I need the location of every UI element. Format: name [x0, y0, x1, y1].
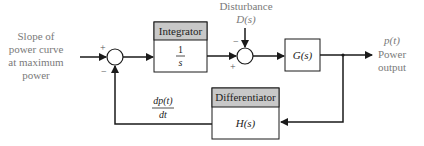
input-line-1: Slope of — [18, 30, 55, 42]
differentiator-label: H(s) — [235, 117, 256, 130]
feedback-derivative-label: dp(t) dt — [152, 95, 174, 120]
plant-label: G(s) — [293, 49, 313, 62]
summing-junction-1 — [107, 49, 123, 65]
sum2-plus-sign: + — [230, 61, 236, 72]
input-label: Slope of power curve at maximum power — [8, 30, 64, 81]
differentiator-block: Differentiator H(s) — [212, 88, 279, 139]
sum2-minus-sign: − — [233, 36, 239, 47]
integrator-numerator: 1 — [178, 44, 183, 55]
output-symbol: p(t) — [383, 34, 400, 47]
derivative-numerator: dp(t) — [153, 95, 173, 107]
integrator-title: Integrator — [159, 25, 203, 37]
integrator-block: Integrator 1 s — [154, 22, 207, 72]
disturbance-title: Disturbance — [219, 0, 272, 12]
disturbance-symbol: D(s) — [235, 13, 256, 26]
block-diagram: Slope of power curve at maximum power + … — [0, 0, 424, 146]
output-line-3: output — [378, 61, 406, 73]
differentiator-title: Differentiator — [215, 91, 276, 103]
plant-block: G(s) — [285, 39, 320, 71]
summing-junction-2 — [237, 48, 253, 64]
disturbance-label: Disturbance D(s) — [219, 0, 272, 26]
sum1-plus-sign: + — [100, 42, 106, 53]
integrator-denominator: s — [179, 57, 183, 68]
input-line-2: power curve — [9, 43, 64, 55]
input-line-4: power — [22, 69, 50, 81]
sum1-minus-sign: − — [101, 66, 107, 77]
input-line-3: at maximum — [8, 56, 64, 68]
output-line-2: Power — [378, 48, 406, 60]
output-label: p(t) Power output — [378, 34, 406, 73]
derivative-denominator: dt — [159, 109, 167, 120]
